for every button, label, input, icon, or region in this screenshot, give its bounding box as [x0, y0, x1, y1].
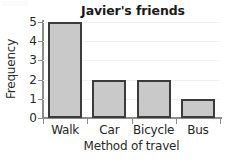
y-axis-tick-label: 3	[24, 54, 37, 66]
y-axis-title: Frequency	[3, 18, 19, 120]
bar	[92, 80, 126, 118]
y-axis-tick	[38, 41, 43, 42]
y-axis-tick	[38, 22, 43, 23]
y-axis-tick	[38, 80, 43, 81]
x-axis-title: Method of travel	[43, 139, 220, 153]
bar	[137, 80, 171, 118]
bar	[48, 22, 82, 118]
bar	[181, 99, 215, 118]
y-axis-tick	[38, 99, 43, 100]
x-axis-category-label: Car	[87, 123, 131, 137]
x-axis-tick	[220, 119, 221, 124]
scan-artifact	[2, 1, 28, 6]
y-axis-tick-label-text: 4	[24, 35, 37, 47]
y-axis-tick-label-text: 3	[24, 54, 37, 66]
y-axis-tick-label-text: 1	[24, 93, 37, 105]
y-axis-tick-label: 1	[24, 93, 37, 105]
y-axis-tick-label-text: 2	[24, 74, 37, 86]
y-axis-tick-label: 2	[24, 74, 37, 86]
y-axis-tick-label: 4	[24, 35, 37, 47]
y-axis-tick-label-text: 5	[24, 16, 37, 28]
x-axis-category-label: Walk	[43, 123, 87, 137]
y-axis-title-text: Frequency	[4, 39, 18, 99]
y-axis-tick	[38, 60, 43, 61]
y-axis-tick-label: 5	[24, 16, 37, 28]
x-axis-category-label: Bicycle	[132, 123, 176, 137]
chart-title: Javier's friends	[43, 3, 223, 18]
y-axis-tick-label: 0	[24, 112, 37, 124]
x-axis-category-label: Bus	[176, 123, 220, 137]
y-axis-tick-label-text: 0	[24, 112, 37, 124]
bar-chart-figure: Javier's friends Frequency 012345 WalkCa…	[0, 0, 229, 160]
